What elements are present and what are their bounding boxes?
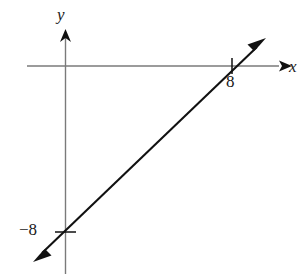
x-axis-label: x	[289, 58, 297, 75]
graph-canvas	[0, 0, 304, 274]
tick-label-x-8: 8	[226, 73, 235, 90]
plotted-line	[42, 47, 257, 253]
x-axis	[27, 61, 292, 72]
tick-label-y-negative-8: −8	[19, 221, 37, 238]
line-graph-figure: y x 8 −8	[0, 0, 304, 274]
line-arrowhead-upper-icon	[248, 38, 267, 51]
line-arrowhead-lower-icon	[33, 249, 52, 262]
tick-marks	[55, 58, 232, 232]
y-axis-label: y	[57, 6, 65, 23]
